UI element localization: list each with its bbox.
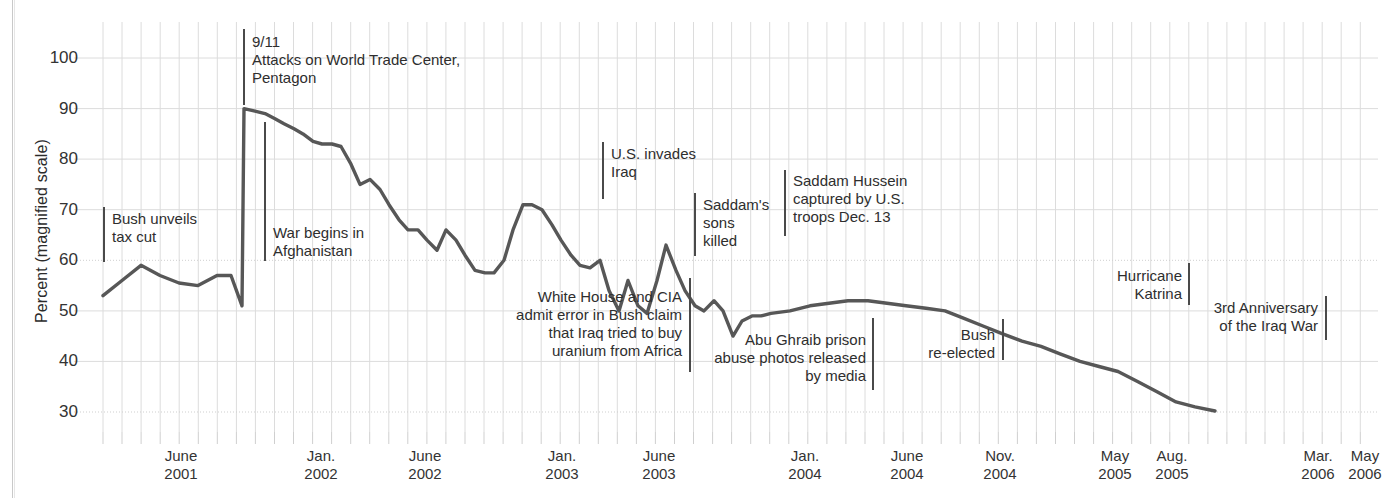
annotation-rule-saddams-sons-killed xyxy=(694,193,696,256)
y-tick-label-90: 90 xyxy=(32,100,78,117)
x-tick-year: 2006 xyxy=(1348,465,1381,483)
x-tick-year: 2002 xyxy=(408,465,441,483)
x-tick-year: 2006 xyxy=(1301,465,1334,483)
x-tick-month: June xyxy=(642,447,675,465)
annotation-third-anniversary-iraq-war: 3rd Anniversary of the Iraq War xyxy=(0,299,1318,335)
x-tick-year: 2003 xyxy=(642,465,675,483)
x-tick-month: June xyxy=(164,447,197,465)
annotation-hurricane-katrina: Hurricane Katrina xyxy=(0,267,1182,303)
annotation-rule-saddam-captured xyxy=(784,170,786,236)
x-tick-month: Jan. xyxy=(304,447,337,465)
y-tick-label-30: 30 xyxy=(32,403,78,420)
annotation-nine-eleven: 9/11 Attacks on World Trade Center, Pent… xyxy=(252,33,460,87)
annotation-rule-nine-eleven xyxy=(243,29,245,105)
x-tick-month: Mar. xyxy=(1301,447,1334,465)
y-tick-label-60: 60 xyxy=(32,251,78,268)
x-tick-label-6: June2004 xyxy=(890,447,923,482)
x-tick-month: May xyxy=(1348,447,1381,465)
x-tick-label-9: Aug.2005 xyxy=(1155,447,1188,482)
y-tick-label-80: 80 xyxy=(32,150,78,167)
x-tick-year: 2004 xyxy=(983,465,1016,483)
x-tick-year: 2004 xyxy=(788,465,821,483)
x-tick-label-2: June2002 xyxy=(408,447,441,482)
x-tick-month: Nov. xyxy=(983,447,1016,465)
x-tick-year: 2005 xyxy=(1155,465,1188,483)
annotation-rule-afghanistan-war xyxy=(264,122,266,261)
annotation-bush-tax-cut: Bush unveils tax cut xyxy=(112,210,197,246)
x-tick-month: Aug. xyxy=(1155,447,1188,465)
x-tick-label-3: Jan.2003 xyxy=(545,447,578,482)
x-tick-month: June xyxy=(408,447,441,465)
x-tick-label-4: June2003 xyxy=(642,447,675,482)
x-tick-label-5: Jan.2004 xyxy=(788,447,821,482)
x-tick-label-1: Jan.2002 xyxy=(304,447,337,482)
x-tick-month: May xyxy=(1098,447,1131,465)
y-tick-label-100: 100 xyxy=(32,49,78,66)
x-tick-month: Jan. xyxy=(545,447,578,465)
x-tick-label-0: June2001 xyxy=(164,447,197,482)
x-tick-month: Jan. xyxy=(788,447,821,465)
x-tick-label-11: May2006 xyxy=(1348,447,1381,482)
annotation-rule-us-invades-iraq xyxy=(602,142,604,199)
x-tick-year: 2005 xyxy=(1098,465,1131,483)
x-tick-year: 2003 xyxy=(545,465,578,483)
x-tick-year: 2002 xyxy=(304,465,337,483)
x-tick-label-8: May2005 xyxy=(1098,447,1131,482)
annotation-us-invades-iraq: U.S. invades Iraq xyxy=(611,145,696,181)
plot-area xyxy=(0,0,1385,498)
x-tick-year: 2004 xyxy=(890,465,923,483)
annotation-rule-third-anniversary-iraq-war xyxy=(1325,296,1327,340)
y-tick-label-70: 70 xyxy=(32,201,78,218)
x-tick-label-10: Mar.2006 xyxy=(1301,447,1334,482)
x-tick-year: 2001 xyxy=(164,465,197,483)
x-tick-label-7: Nov.2004 xyxy=(983,447,1016,482)
annotation-saddams-sons-killed: Saddam's sons killed xyxy=(703,196,769,250)
approval-rating-chart: Percent (magnified scale) 30405060708090… xyxy=(0,0,1385,498)
annotation-rule-bush-tax-cut xyxy=(103,207,105,262)
x-tick-month: June xyxy=(890,447,923,465)
annotation-saddam-captured: Saddam Hussein captured by U.S. troops D… xyxy=(793,172,907,226)
annotation-afghanistan-war: War begins in Afghanistan xyxy=(273,224,364,260)
